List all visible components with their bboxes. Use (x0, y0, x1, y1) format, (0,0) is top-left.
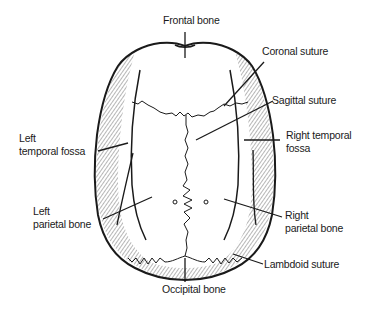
label-right-temporal-fossa-2: fossa (286, 142, 310, 154)
skull-diagram: Frontal bone Coronal suture Sagittal sut… (0, 0, 370, 312)
label-left-parietal-bone-1: Left (33, 205, 50, 217)
label-right-parietal-bone-1: Right (285, 209, 309, 221)
label-left-temporal-fossa-1: Left (19, 132, 36, 144)
label-frontal-bone: Frontal bone (163, 14, 220, 26)
coronal-suture-line (132, 101, 248, 117)
label-right-parietal-bone-2: parietal bone (285, 222, 343, 234)
label-sagittal-suture: Sagittal suture (272, 94, 336, 106)
label-right-temporal-fossa-1: Right temporal (286, 129, 351, 141)
sagittal-suture-line (183, 115, 192, 256)
label-occipital-bone: Occipital bone (162, 283, 226, 295)
skull-shading (96, 50, 274, 280)
label-coronal-suture: Coronal suture (262, 45, 328, 57)
label-lambdoid-suture: Lambdoid suture (264, 258, 339, 270)
label-left-parietal-bone-2: parietal bone (33, 218, 91, 230)
label-left-temporal-fossa-2: temporal fossa (19, 145, 85, 157)
